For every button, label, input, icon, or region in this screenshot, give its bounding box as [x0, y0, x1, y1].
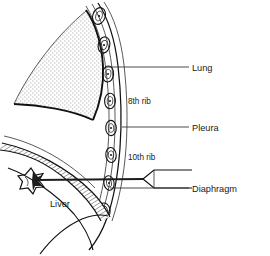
- label-liver: Liver: [50, 199, 70, 209]
- label-diaphragm: Diaphragm: [192, 184, 237, 194]
- label-pleura: Pleura: [192, 123, 219, 133]
- needle-hub-bottom: [143, 179, 192, 188]
- label-8th-rib: 8th rib: [128, 97, 151, 106]
- anatomy-diagram: Lung 8th rib Pleura 10th rib Liver Diaph…: [0, 0, 270, 256]
- label-lung: Lung: [192, 63, 212, 73]
- needle-hub-top: [143, 170, 192, 179]
- liver-structure: [8, 168, 108, 254]
- needle-shaft: [36, 179, 143, 180]
- lesion-inner-line: [25, 177, 28, 186]
- anatomy-illustration: Lung 8th rib Pleura 10th rib Liver Diaph…: [0, 0, 270, 256]
- label-10th-rib: 10th rib: [128, 153, 156, 162]
- liver-inferior-border: [40, 215, 108, 254]
